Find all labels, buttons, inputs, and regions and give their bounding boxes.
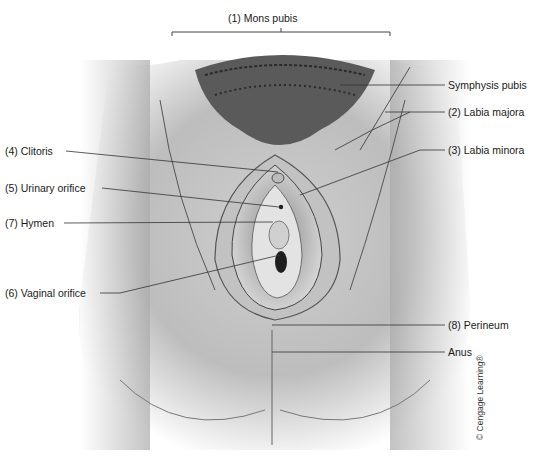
clitoris-shape [272,173,284,183]
label-perineum: (8) Perineum [448,319,509,331]
label-urinary-orifice: (5) Urinary orifice [5,182,86,194]
anatomy-figure: (1) Mons pubis Symphysis pubis (2) Labia… [0,0,537,460]
label-labia-majora: (2) Labia majora [448,106,524,118]
label-labia-minora: (3) Labia minora [448,144,524,156]
copyright-credit: © Cengage Learning® [475,355,485,440]
label-vaginal-orifice: (6) Vaginal orifice [5,287,86,299]
label-mons-pubis: (1) Mons pubis [228,12,297,24]
mons-pubis-bracket [172,32,390,36]
illustration [0,0,537,460]
label-anus: Anus [448,346,472,358]
label-clitoris: (4) Clitoris [5,145,53,157]
hymen-shape [269,221,289,249]
vaginal-orifice-shape [275,251,287,273]
label-hymen: (7) Hymen [5,217,54,229]
label-symphysis-pubis: Symphysis pubis [448,79,527,91]
urinary-orifice-shape [279,205,283,209]
